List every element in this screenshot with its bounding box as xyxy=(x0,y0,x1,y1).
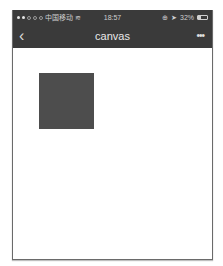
location-icon: ➤ xyxy=(171,10,177,25)
battery-percent: 32% xyxy=(180,10,194,25)
phone-screen: 中国移动 ≋ 18:57 ⊕ ➤ 32% ‹ canvas ••• xyxy=(12,10,213,260)
battery-icon xyxy=(197,15,208,20)
canvas-area xyxy=(13,48,212,259)
page-title: canvas xyxy=(13,25,212,48)
status-bar: 中国移动 ≋ 18:57 ⊕ ➤ 32% xyxy=(13,10,212,25)
nav-bar: ‹ canvas ••• xyxy=(13,25,212,48)
orientation-lock-icon: ⊕ xyxy=(162,10,168,25)
more-options-icon[interactable]: ••• xyxy=(196,25,204,47)
canvas-rectangle xyxy=(39,73,94,129)
status-right: ⊕ ➤ 32% xyxy=(162,10,208,25)
